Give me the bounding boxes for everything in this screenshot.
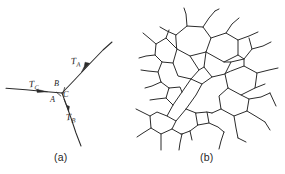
angle-label-b: B [54,80,59,88]
cell-wall [207,112,212,113]
cell-wall [215,9,219,11]
cell-wall [265,122,270,130]
cell-wall [255,84,265,88]
angle-label-c: C [63,91,68,99]
cell-wall [158,62,162,82]
cell-wall [249,93,270,99]
cell-wall [139,55,155,58]
vector-label-tc: TC [29,80,39,92]
cell-wall [186,109,196,113]
ray-a-line [62,42,112,93]
panel-b-caption: (b) [200,152,213,163]
cell-wall [226,18,239,33]
cell-wall [257,68,278,73]
cell-wall [209,123,224,132]
vector-label-tb: TB [66,113,76,125]
cell-wall [238,138,246,142]
cell-wall [238,55,244,59]
cell-wall [199,67,204,70]
cell-wall [234,116,238,138]
panel-b-artwork [136,8,278,150]
cell-wall [161,82,169,88]
cell-wall [203,11,215,27]
cell-wall [196,112,209,125]
cell-wall [247,111,265,122]
panel-a-artwork [6,42,112,146]
cell-wall [145,82,161,88]
cell-wall [219,132,224,149]
cell-wall [202,77,212,84]
angle-label-a: A [50,96,55,104]
cell-wall [270,93,276,106]
vector-label-ta: TA [71,57,81,69]
cell-wall [169,87,182,92]
cell-wall [238,32,258,40]
cell-wall [212,109,221,113]
cell-wall [184,8,187,26]
figure-container: TA TB TC A B C (a) (b) [0,0,285,174]
ray-b-arrowhead [64,99,70,111]
cell-wall [172,129,181,134]
cell-wall [190,131,192,140]
cell-wall [252,42,271,49]
cell-wall [141,70,158,72]
cell-wall [166,88,173,105]
cell-wall [150,98,166,100]
cell-wall [225,66,257,95]
cell-wall [137,128,151,137]
cell-wall [219,88,249,116]
cell-wall [231,38,252,62]
cell-wall [136,109,150,116]
cell-wall [176,26,211,56]
figure-artwork [0,0,285,174]
ray-a-arrowhead [82,62,90,72]
cell-wall [143,33,156,44]
panel-a-caption: (a) [54,152,67,163]
cell-wall [150,112,176,134]
cell-wall [179,134,182,150]
